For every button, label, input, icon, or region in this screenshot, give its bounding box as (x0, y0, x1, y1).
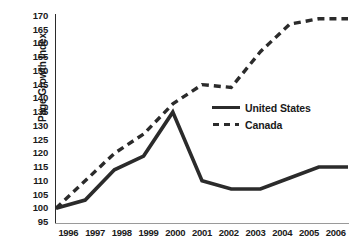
x-axis-tick-label: 2001 (189, 227, 216, 243)
solid-line-swatch-icon (212, 102, 240, 113)
y-axis-title: Page Growth Index (37, 18, 48, 138)
legend-item-united-states: United States (212, 100, 311, 115)
y-axis-tick-label: 110 (0, 176, 48, 186)
legend-label: Canada (245, 119, 282, 131)
line-chart: 1701651601551501451401351301251201151101… (0, 0, 359, 252)
y-axis-tick-label: 120 (0, 148, 48, 158)
x-axis-tick-label: 2004 (269, 227, 296, 243)
dashed-line-swatch-icon (212, 119, 240, 130)
y-axis-tick-label: 100 (0, 203, 48, 213)
x-axis-tick-labels: 1996199719981999200020012002200320042005… (55, 227, 349, 243)
x-axis-tick-label: 2005 (296, 227, 323, 243)
legend: United States Canada (212, 100, 311, 134)
legend-label: United States (245, 102, 311, 114)
x-axis-tick-label: 2006 (322, 227, 349, 243)
y-axis-tick-label: 115 (0, 162, 48, 172)
x-axis-tick-label: 1999 (135, 227, 162, 243)
y-axis-tick-label: 95 (0, 217, 48, 227)
x-axis-tick-label: 2002 (215, 227, 242, 243)
x-axis-tick-label: 2000 (162, 227, 189, 243)
y-axis-tick-label: 105 (0, 190, 48, 200)
x-axis-line (55, 223, 349, 224)
x-axis-tick-label: 1996 (55, 227, 82, 243)
x-axis-tick-label: 2003 (242, 227, 269, 243)
legend-item-canada: Canada (212, 117, 311, 132)
x-axis-tick-label: 1997 (82, 227, 109, 243)
x-axis-tick-label: 1998 (108, 227, 135, 243)
